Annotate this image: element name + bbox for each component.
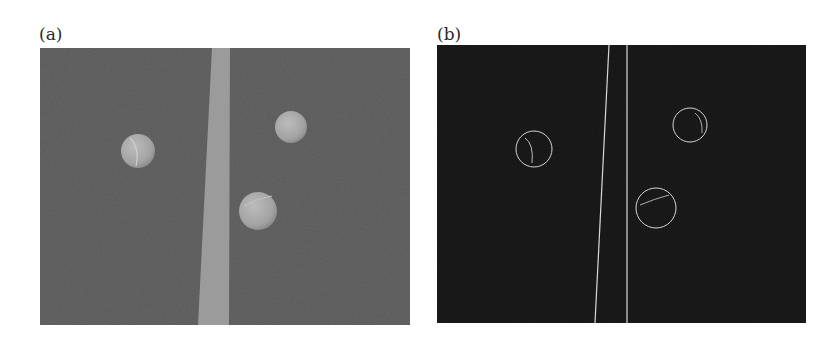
edge-map xyxy=(437,45,806,323)
tennis-ball xyxy=(239,192,277,230)
tennis-ball xyxy=(121,134,155,168)
panel-a-label: (a) xyxy=(39,26,62,43)
edge-detection-panel xyxy=(437,45,806,323)
photo-panel-tennis-balls xyxy=(40,48,410,325)
tennis-ball xyxy=(275,111,307,143)
panel-b-label: (b) xyxy=(437,26,461,43)
photo-scene xyxy=(40,48,410,325)
